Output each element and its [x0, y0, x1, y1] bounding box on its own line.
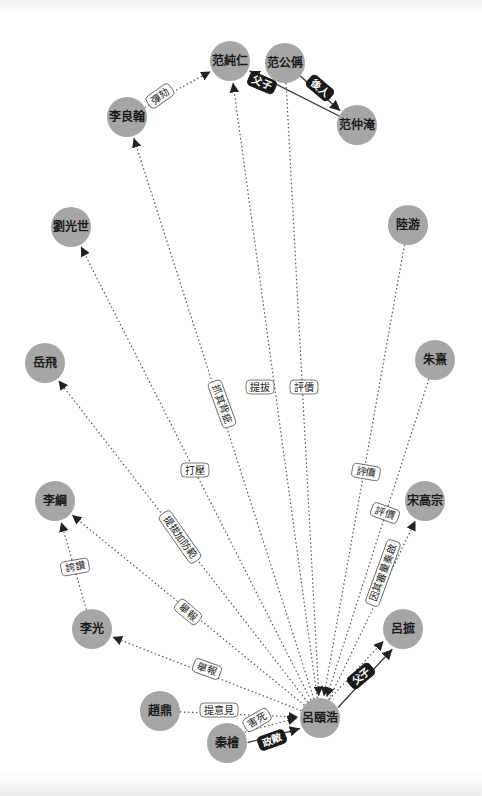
- node-label: 李良翰: [108, 109, 145, 124]
- edge-label: 父子: [346, 662, 376, 691]
- node-label: 范仲淹: [339, 117, 376, 132]
- node-label: 呂摭: [391, 621, 415, 636]
- node-label: 宋高宗: [407, 493, 443, 508]
- node-范公偁[interactable]: 范公偁: [265, 43, 305, 83]
- node-朱熹[interactable]: 朱熹: [415, 340, 455, 380]
- edge-label-text: 抓其背疵: [210, 383, 235, 425]
- node-label: 李光: [79, 621, 104, 636]
- edge-label: 評價: [290, 380, 318, 394]
- edge-label: 舉報: [173, 598, 203, 627]
- edge-label: 提意見: [200, 703, 238, 717]
- node-呂頤浩[interactable]: 呂頤浩: [300, 698, 340, 738]
- edge-label: 舉報: [191, 658, 222, 681]
- nodes-layer: 范純仁范公偁范仲淹李良翰劉光世陸游岳飛朱熹李綱宋高宗李光呂摭趙鼎呂頤浩秦檜: [25, 41, 455, 763]
- edge-label-text: 提拔加防範: [161, 513, 200, 561]
- edge-label: 打壓: [181, 463, 209, 477]
- node-label: 范純仁: [212, 53, 248, 68]
- edge-label: 評價: [351, 463, 381, 482]
- edge-label: 政敵: [256, 729, 287, 752]
- node-label: 呂頤浩: [302, 710, 338, 725]
- node-label: 劉光世: [52, 219, 89, 234]
- node-秦檜[interactable]: 秦檜: [207, 723, 247, 763]
- edge-label: 提拔加防範: [158, 509, 203, 565]
- edge-label-text: 評價: [294, 381, 314, 393]
- relationship-graph: 父子後人彈劾抓其背疵提拔評價打壓評價提拔加防範評價因其審量奏啟誇讚舉報舉報父子提…: [0, 0, 482, 796]
- node-陸游[interactable]: 陸游: [388, 205, 428, 245]
- edge-label-text: 提意見: [204, 704, 234, 716]
- node-label: 秦檜: [214, 735, 240, 750]
- edge-label: 誇讚: [60, 558, 90, 577]
- node-label: 范公偁: [267, 55, 303, 70]
- node-label: 朱熹: [423, 352, 447, 367]
- node-label: 趙鼎: [148, 703, 172, 718]
- edge-label-text: 舉報: [196, 659, 219, 677]
- node-范仲淹[interactable]: 范仲淹: [337, 105, 377, 145]
- edge-label: 評價: [369, 502, 400, 525]
- node-趙鼎[interactable]: 趙鼎: [140, 691, 180, 731]
- edge-label-text: 提拔: [250, 381, 270, 393]
- node-岳飛[interactable]: 岳飛: [25, 343, 65, 383]
- edges-layer: [58, 71, 428, 743]
- edge-label-text: 評價: [374, 503, 397, 521]
- edge-label: 後人: [305, 74, 335, 103]
- edge-label: 提拔: [246, 380, 274, 394]
- node-李綱[interactable]: 李綱: [35, 481, 75, 521]
- edge-趙鼎-呂頤浩: [180, 712, 298, 717]
- node-label: 李綱: [42, 493, 67, 508]
- edge-label: 因其審量奏啟: [365, 539, 401, 608]
- edge-label: 抓其背疵: [207, 379, 237, 429]
- node-label: 岳飛: [33, 355, 57, 370]
- node-宋高宗[interactable]: 宋高宗: [405, 481, 445, 521]
- edge-label-text: 打壓: [185, 464, 205, 476]
- edge-朱熹-呂頤浩: [327, 379, 429, 697]
- edge-label: 彈劾: [145, 82, 176, 110]
- node-李光[interactable]: 李光: [72, 609, 112, 649]
- node-呂摭[interactable]: 呂摭: [383, 609, 423, 649]
- node-李良翰[interactable]: 李良翰: [107, 97, 147, 137]
- node-范純仁[interactable]: 范純仁: [210, 41, 250, 81]
- edge-labels-layer: 父子後人彈劾抓其背疵提拔評價打壓評價提拔加防範評價因其審量奏啟誇讚舉報舉報父子提…: [60, 71, 401, 751]
- node-label: 陸游: [396, 217, 420, 232]
- node-劉光世[interactable]: 劉光世: [51, 207, 91, 247]
